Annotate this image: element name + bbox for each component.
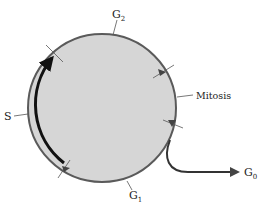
g0-exit-arrow [167, 140, 238, 172]
g0-label: G0 [244, 166, 257, 181]
s-leader [14, 114, 28, 116]
cell-circle [28, 34, 176, 182]
g1-label: G1 [129, 189, 142, 204]
cell-cycle-diagram: G2 Mitosis G1 S G0 [0, 0, 261, 207]
mitosis-label: Mitosis [196, 90, 231, 101]
g2-leader [113, 20, 117, 35]
g2-label: G2 [112, 8, 125, 23]
s-label: S [4, 110, 12, 123]
mitosis-leader [177, 95, 193, 97]
